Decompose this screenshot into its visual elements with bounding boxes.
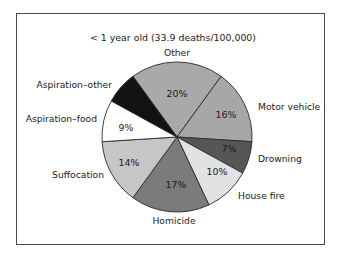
pct-homicide: 17% — [166, 179, 187, 190]
label-homicide: Homicide — [152, 215, 195, 226]
chart-title: < 1 year old (33.9 deaths/100,000) — [90, 32, 256, 43]
pct-aspiration-food: 9% — [119, 122, 134, 133]
pct-suffocation: 14% — [119, 157, 140, 168]
pie-chart: < 1 year old (33.9 deaths/100,000) 20% 1… — [0, 0, 338, 256]
pct-drowning: 7% — [222, 143, 237, 154]
label-house-fire: House fire — [238, 190, 285, 201]
pct-other: 20% — [167, 88, 188, 99]
label-other: Other — [164, 47, 190, 58]
pct-house-fire: 10% — [207, 166, 228, 177]
label-aspiration-food: Aspiration–food — [26, 113, 97, 124]
label-suffocation: Suffocation — [52, 169, 104, 180]
pct-aspiration-other: 7% — [131, 101, 146, 112]
label-drowning: Drowning — [258, 153, 302, 164]
label-aspiration-other: Aspiration–other — [36, 79, 112, 90]
label-motor-vehicle: Motor vehicle — [258, 101, 321, 112]
pct-motor-vehicle: 16% — [216, 109, 237, 120]
